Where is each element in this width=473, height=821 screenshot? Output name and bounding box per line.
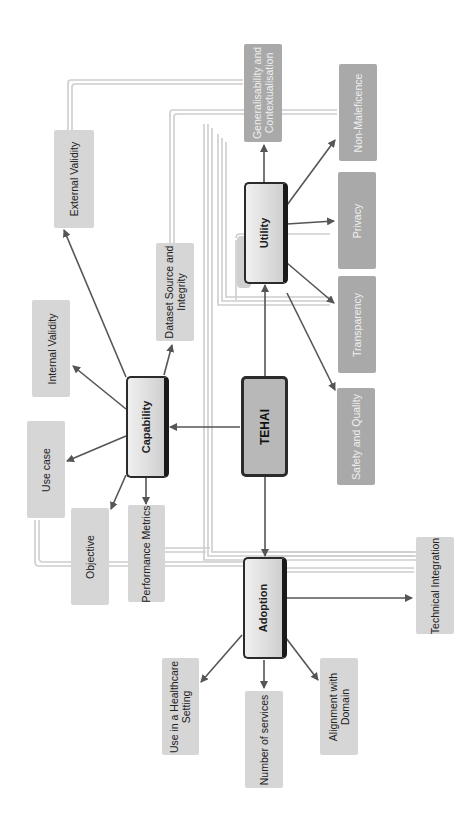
node-privacy[interactable]: Privacy bbox=[338, 172, 376, 269]
label-external-validity: External Validity bbox=[68, 142, 80, 217]
label-alignment-line1: Alignment with bbox=[327, 672, 339, 740]
label-performance-metrics: Performance Metrics bbox=[141, 505, 153, 602]
label-internal-validity: Internal Validity bbox=[45, 313, 57, 384]
node-use-in-healthcare-setting[interactable]: Use in a Healthcare Setting bbox=[162, 658, 199, 755]
node-use-case[interactable]: Use case bbox=[27, 421, 65, 518]
node-objective[interactable]: Objective bbox=[71, 508, 109, 605]
label-dataset-line2: Integrity bbox=[175, 246, 187, 339]
label-alignment-line2: Domain bbox=[339, 672, 351, 740]
node-number-of-services[interactable]: Number of services bbox=[245, 691, 283, 788]
label-capability: Capability bbox=[140, 401, 152, 454]
label-privacy: Privacy bbox=[351, 203, 363, 237]
label-dataset-line1: Dataset Source and bbox=[163, 246, 175, 339]
label-technical-integration: Technical Integration bbox=[429, 537, 441, 633]
arrows bbox=[0, 0, 473, 821]
label-generalisability-line1: Generalisability and bbox=[251, 47, 263, 139]
node-dataset-source-integrity[interactable]: Dataset Source and Integrity bbox=[156, 243, 194, 341]
label-adoption: Adoption bbox=[258, 584, 270, 632]
label-tehai: TEHAI bbox=[259, 409, 271, 445]
node-technical-integration[interactable]: Technical Integration bbox=[416, 537, 454, 634]
node-transparency[interactable]: Transparency bbox=[338, 276, 376, 373]
label-generalisability-line2: Contextualisation bbox=[263, 47, 275, 139]
label-use-healthcare-line2: Setting bbox=[181, 660, 193, 752]
tehai-framework-diagram: Generalisability and Contextualisation N… bbox=[0, 0, 473, 821]
label-use-healthcare-line1: Use in a Healthcare bbox=[169, 660, 181, 752]
label-utility: Utility bbox=[259, 218, 271, 249]
node-internal-validity[interactable]: Internal Validity bbox=[32, 300, 70, 397]
node-alignment-with-domain[interactable]: Alignment with Domain bbox=[320, 658, 358, 755]
node-generalisability-contextualisation[interactable]: Generalisability and Contextualisation bbox=[244, 44, 282, 142]
label-use-case: Use case bbox=[40, 448, 52, 492]
node-utility[interactable]: Utility bbox=[244, 182, 288, 284]
node-safety-and-quality[interactable]: Safety and Quality bbox=[337, 388, 375, 485]
label-number-of-services: Number of services bbox=[258, 694, 270, 784]
label-transparency: Transparency bbox=[351, 293, 363, 357]
node-external-validity[interactable]: External Validity bbox=[54, 130, 94, 228]
node-adoption[interactable]: Adoption bbox=[243, 557, 287, 659]
node-capability[interactable]: Capability bbox=[126, 376, 169, 478]
label-non-maleficence: Non-Maleficence bbox=[352, 73, 364, 152]
node-performance-metrics[interactable]: Performance Metrics bbox=[128, 505, 165, 602]
label-objective: Objective bbox=[84, 535, 96, 579]
label-safety-and-quality: Safety and Quality bbox=[350, 394, 362, 480]
node-non-maleficence[interactable]: Non-Maleficence bbox=[339, 64, 377, 161]
node-tehai[interactable]: TEHAI bbox=[241, 376, 288, 477]
